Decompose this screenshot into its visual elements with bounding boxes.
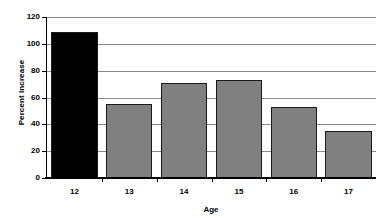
x-tick-label-13: 13 [102,188,157,196]
bar-age-16 [271,107,317,178]
y-tick-label-40: 40 [14,120,40,128]
x-tick-label-17: 17 [321,188,376,196]
x-axis-tick-labels: 121314151617 [47,188,376,200]
y-tick-label-100: 100 [14,40,40,48]
x-tick-label-12: 12 [47,188,102,196]
y-axis-tick-labels: 020406080100120 [14,17,40,178]
x-tick-mark-3 [212,178,213,182]
y-tick-label-80: 80 [14,67,40,75]
y-tick-label-20: 20 [14,147,40,155]
bar-age-17 [325,131,371,178]
x-axis-line [45,177,376,179]
bar-series [47,17,376,178]
x-tick-mark-1 [102,178,103,182]
bar-age-13 [106,104,152,178]
bar-age-12 [51,32,97,178]
y-tick-label-60: 60 [14,94,40,102]
x-tick-mark-2 [157,178,158,182]
bar-chart: Percent Increase 020406080100120 1213141… [0,0,379,224]
x-tick-mark-4 [266,178,267,182]
y-tick-label-120: 120 [14,13,40,21]
x-tick-mark-5 [321,178,322,182]
x-axis-title: Age [46,205,376,214]
bar-age-15 [216,80,262,178]
x-tick-label-15: 15 [212,188,267,196]
bar-age-14 [161,83,207,178]
y-tick-label-0: 0 [14,174,40,182]
x-tick-label-14: 14 [157,188,212,196]
x-tick-label-16: 16 [266,188,321,196]
